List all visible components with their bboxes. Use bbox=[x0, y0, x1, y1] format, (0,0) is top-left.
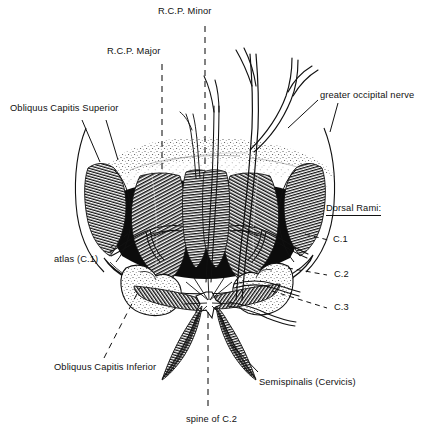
leader-oci bbox=[104, 288, 140, 358]
leader-gon-b bbox=[330, 103, 338, 132]
semispinalis-cervicis-right bbox=[216, 306, 256, 380]
label-atlas: atlas (C.1) bbox=[54, 255, 98, 264]
label-dorsal-ramus-c1: C.1 bbox=[333, 235, 348, 244]
label-semispinalis-cervicis: Semispinalis (Cervicis) bbox=[259, 378, 356, 387]
label-obliquus-capitis-inferior: Obliquus Capitis Inferior bbox=[54, 363, 156, 372]
label-spine-of-c2: spine of C.2 bbox=[186, 415, 237, 424]
label-dorsal-rami-heading: Dorsal Rami: bbox=[326, 204, 381, 216]
leader-ocs-a bbox=[82, 120, 100, 162]
label-dorsal-ramus-c2: C.2 bbox=[334, 270, 349, 279]
semispinalis-cervicis-left bbox=[162, 306, 202, 380]
label-obliquus-capitis-superior: Obliquus Capitis Superior bbox=[10, 104, 118, 113]
label-rcp-major: R.C.P. Major bbox=[107, 47, 160, 56]
leader-gon-a bbox=[288, 100, 318, 128]
label-greater-occipital-nerve: greater occipital nerve bbox=[320, 91, 414, 100]
leader-ocs-b bbox=[106, 120, 118, 160]
label-rcp-minor: R.C.P. Minor bbox=[158, 7, 211, 16]
label-dorsal-ramus-c3: C.3 bbox=[334, 303, 349, 312]
